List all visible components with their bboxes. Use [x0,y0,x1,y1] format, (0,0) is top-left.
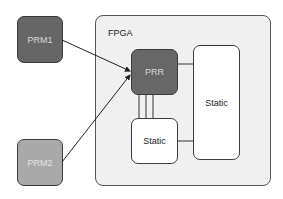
prm2-node: PRM2 [17,139,63,186]
prm2-label: PRM2 [27,158,52,168]
static-tall-label: Static [205,98,228,108]
prr-label: PRR [145,67,164,77]
static-small-label: Static [143,136,166,146]
prm1-node: PRM1 [17,16,63,63]
static-tall-node: Static [193,45,240,160]
prm1-label: PRM1 [27,35,52,45]
fpga-container: FPGA [95,15,271,186]
static-small-node: Static [131,118,178,164]
prr-node: PRR [131,49,178,95]
fpga-label: FPGA [108,28,133,38]
